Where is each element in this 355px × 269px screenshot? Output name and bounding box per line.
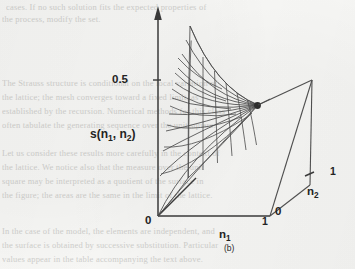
- figure-caption: (b): [224, 243, 234, 253]
- origin-label: 0: [145, 214, 151, 226]
- x-axis-label: n1: [219, 228, 231, 243]
- y-axis-origin-tick-label: 0: [275, 205, 281, 217]
- surface-mesh: [158, 26, 270, 216]
- x-axis-max-tick-label: 1: [262, 215, 268, 227]
- x-axis-label-sub: 1: [226, 234, 231, 243]
- z-axis-label-end: ): [132, 127, 136, 141]
- y-axis-label-sub: 2: [314, 191, 319, 200]
- figure-page: cases. If no such solution fits the expe…: [0, 0, 355, 269]
- y-axis-label-text: n: [307, 185, 314, 197]
- z-axis-tick-label: 0.5: [112, 73, 128, 85]
- z-axis-label: s(n1, n2): [90, 127, 136, 143]
- vertical-axis: [153, 6, 162, 216]
- x-axis-label-text: n: [219, 228, 226, 240]
- surface-plot: [0, 0, 355, 269]
- z-axis-label-text: s(n: [90, 127, 108, 141]
- y-axis-label: n2: [307, 185, 319, 200]
- z-axis-label-mid: , n: [113, 127, 127, 141]
- y-axis-max-tick-label: 1: [330, 165, 336, 177]
